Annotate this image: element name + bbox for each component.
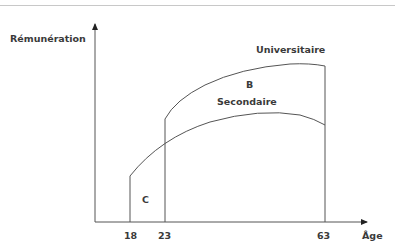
x-axis-label: Âge — [362, 230, 383, 241]
region-b-label: B — [246, 79, 253, 90]
tick-23: 23 — [158, 230, 171, 241]
universitaire-curve — [165, 64, 325, 119]
tick-18: 18 — [124, 230, 137, 241]
secondaire-curve — [130, 113, 325, 176]
secondaire-label: Secondaire — [217, 96, 277, 107]
universitaire-label: Universitaire — [256, 44, 325, 55]
y-axis-label: Rémunération — [10, 33, 86, 44]
tick-63: 63 — [317, 230, 330, 241]
region-c-label: C — [142, 194, 149, 205]
